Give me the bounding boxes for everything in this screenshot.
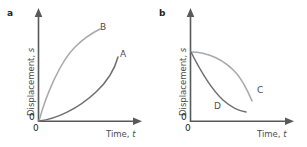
figure-container: a Displacement, s Time, t 0 0 B A b Disp… bbox=[0, 0, 307, 147]
curve-label-a: A bbox=[120, 50, 126, 59]
panel-a-x-axis-text: Time, bbox=[106, 129, 130, 139]
panel-a-y-origin-label: 0 bbox=[29, 113, 35, 122]
curve-b bbox=[39, 29, 100, 121]
curve-label-d: D bbox=[214, 102, 221, 111]
panel-b-y-axis-text: Displacement, bbox=[178, 55, 188, 116]
y-axis-arrowhead bbox=[187, 8, 195, 17]
panel-b: b Displacement, s Time, t 0 0 C D bbox=[153, 0, 306, 147]
curve-c bbox=[191, 52, 252, 101]
panel-a: a Displacement, s Time, t 0 0 B A bbox=[0, 0, 153, 147]
y-axis-arrowhead bbox=[35, 8, 43, 17]
curve-label-b: B bbox=[100, 23, 106, 32]
panel-b-x-origin-label: 0 bbox=[185, 124, 191, 133]
panel-b-x-axis-symbol: t bbox=[283, 129, 286, 139]
panel-a-y-axis-label: Displacement, s bbox=[27, 48, 36, 116]
panel-a-x-origin-label: 0 bbox=[33, 124, 39, 133]
panel-b-x-axis-text: Time, bbox=[257, 129, 281, 139]
panel-b-y-origin-label: 0 bbox=[181, 113, 187, 122]
panel-a-x-axis-label: Time, t bbox=[106, 130, 136, 139]
panel-b-x-axis-label: Time, t bbox=[257, 130, 287, 139]
x-axis-arrowhead bbox=[133, 117, 142, 125]
panel-a-plot bbox=[0, 0, 153, 147]
panel-a-letter: a bbox=[7, 9, 13, 18]
panel-b-letter: b bbox=[159, 9, 165, 18]
panel-b-y-axis-symbol: s bbox=[178, 48, 188, 52]
panel-b-plot bbox=[153, 0, 306, 147]
panel-b-y-axis-label: Displacement, s bbox=[179, 48, 188, 116]
x-axis-arrowhead bbox=[285, 117, 294, 125]
curve-a bbox=[39, 57, 118, 121]
panel-a-y-axis-symbol: s bbox=[26, 48, 36, 52]
curve-label-c: C bbox=[257, 86, 263, 95]
panel-a-x-axis-symbol: t bbox=[132, 129, 135, 139]
panel-a-y-axis-text: Displacement, bbox=[26, 55, 36, 116]
